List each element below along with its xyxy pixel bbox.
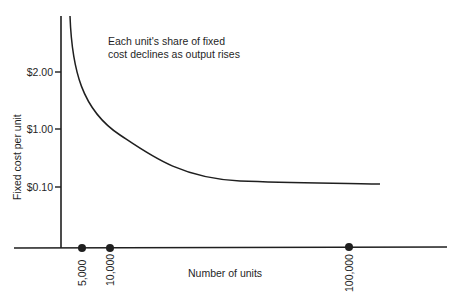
x-tick-label: 100,000 (343, 254, 355, 292)
y-ticks: $2.00 $1.00 $0.10 (27, 66, 61, 193)
marker-5000 (78, 244, 86, 252)
x-tick-label: 10,000 (104, 254, 116, 286)
annotation-line-2: cost declines as output rises (108, 48, 240, 60)
marker-10000 (106, 244, 114, 252)
y-tick-label: $0.10 (27, 181, 53, 193)
x-axis-title: Number of units (188, 267, 262, 279)
y-tick-label: $1.00 (27, 123, 53, 135)
y-tick-label: $2.00 (27, 66, 53, 78)
annotation-line-1: Each unit's share of fixed (108, 35, 225, 47)
fixed-cost-chart: $2.00 $1.00 $0.10 Fixed cost per unit Ea… (0, 0, 456, 300)
y-axis-title: Fixed cost per unit (11, 114, 23, 200)
marker-100000 (345, 243, 353, 251)
x-tick-label: 5,000 (76, 260, 88, 286)
